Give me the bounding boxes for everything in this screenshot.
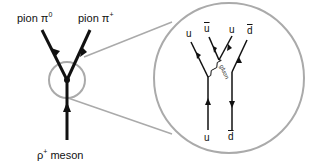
label-rho-meson: ρ+ meson (37, 148, 83, 161)
label-pion-piplus: pion π+ (78, 11, 114, 24)
quark-dbar-top: d (247, 26, 253, 36)
quark-dbar-bottom: d (228, 132, 234, 142)
quark-u-right: u (229, 25, 235, 35)
vertex-dot (64, 77, 70, 83)
label-pion-pi0: pion π0 (17, 11, 52, 24)
arrow-up-icon (63, 102, 71, 112)
zoom-line-bottom (68, 98, 172, 134)
quark-ubar: u (204, 24, 210, 34)
quark-u-left: u (186, 29, 192, 39)
feynman-diagram (0, 0, 310, 166)
quark-u-bottom: u (204, 133, 210, 143)
